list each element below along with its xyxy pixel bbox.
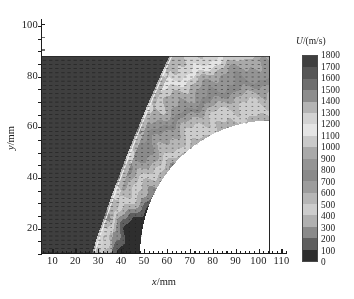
colorbar-band	[303, 227, 317, 238]
colorbar-tick-labels: 1800170016001500140013001200110010009008…	[321, 55, 354, 262]
y-tick-minor	[38, 191, 42, 192]
colorbar-band	[303, 170, 317, 181]
x-tick-minor	[226, 251, 227, 255]
colorbar-band	[303, 124, 317, 135]
colorbar-tick-label: 800	[321, 165, 335, 175]
x-tick-major	[75, 249, 76, 255]
y-tick-minor	[38, 165, 42, 166]
x-tick-minor	[94, 251, 95, 255]
colorbar-tick-label: 700	[321, 177, 335, 187]
y-tick-minor	[38, 140, 42, 141]
x-tick-label: 30	[93, 255, 104, 266]
x-tick-minor	[199, 251, 200, 255]
y-tick-label: 100	[22, 19, 38, 30]
colorbar-band	[303, 238, 317, 249]
y-axis-line	[41, 19, 42, 254]
x-tick-minor	[231, 251, 232, 255]
colorbar-tick-label: 1000	[321, 142, 340, 152]
x-tick-label: 70	[184, 255, 195, 266]
x-tick-major	[167, 249, 168, 255]
colorbar-band	[303, 113, 317, 124]
x-tick-minor	[181, 251, 182, 255]
x-tick-minor	[66, 251, 67, 255]
x-tick-minor	[126, 251, 127, 255]
plot-axes-frame: 20406080100 102030405060708090100110	[41, 19, 286, 254]
colorbar-tick-label: 200	[321, 234, 335, 244]
x-tick-minor	[80, 251, 81, 255]
colorbar-tick-label: 400	[321, 211, 335, 221]
y-axis-sep: /	[5, 142, 16, 145]
colorbar-tick-label: 1300	[321, 108, 340, 118]
colorbar-tick-label: 300	[321, 223, 335, 233]
colorbar-tick-label: 1800	[321, 50, 340, 60]
colorbar-band	[303, 215, 317, 226]
x-tick-label: 110	[273, 255, 289, 266]
x-tick-minor	[158, 251, 159, 255]
y-tick-minor	[38, 77, 42, 78]
y-tick-minor	[38, 203, 42, 204]
colorbar-band	[303, 102, 317, 113]
x-tick-label: 10	[47, 255, 58, 266]
x-tick-major	[98, 249, 99, 255]
x-tick-label: 60	[161, 255, 172, 266]
colorbar: U/(m/s) 18001700160015001400130012001100…	[296, 36, 354, 268]
colorbar-band	[303, 90, 317, 101]
colorbar-band	[303, 147, 317, 158]
y-tick-minor	[38, 153, 42, 154]
x-tick-minor	[204, 251, 205, 255]
y-tick-minor	[38, 26, 42, 27]
x-tick-minor	[112, 251, 113, 255]
x-tick-label: 50	[139, 255, 150, 266]
x-tick-minor	[194, 251, 195, 255]
colorbar-symbol: U	[296, 36, 303, 46]
x-tick-minor	[57, 251, 58, 255]
y-tick-minor	[38, 229, 42, 230]
x-tick-minor	[117, 251, 118, 255]
colorbar-tick-label: 1100	[321, 131, 340, 141]
x-tick-label: 90	[230, 255, 241, 266]
x-tick-label: 80	[207, 255, 218, 266]
colorbar-band	[303, 250, 317, 261]
x-tick-major	[281, 249, 282, 255]
colorbar-tick-label: 1200	[321, 119, 340, 129]
x-tick-minor	[135, 251, 136, 255]
x-tick-minor	[139, 251, 140, 255]
y-tick-minor	[38, 51, 42, 52]
x-tick-minor	[103, 251, 104, 255]
colorbar-tick-label: 1700	[321, 62, 340, 72]
y-tick-minor	[38, 89, 42, 90]
x-tick-minor	[272, 251, 273, 255]
colorbar-tick-label: 1600	[321, 73, 340, 83]
x-tick-minor	[43, 251, 44, 255]
y-tick-minor	[38, 241, 42, 242]
x-tick-minor	[149, 251, 150, 255]
x-tick-minor	[217, 251, 218, 255]
colorbar-band	[303, 136, 317, 147]
colorbar-title: U/(m/s)	[296, 36, 326, 46]
colorbar-band	[303, 159, 317, 170]
colorbar-gradient-strip	[302, 55, 318, 262]
x-tick-minor	[62, 251, 63, 255]
velocity-contour-figure: 20406080100 102030405060708090100110 y/m…	[0, 0, 354, 299]
x-tick-major	[236, 249, 237, 255]
x-tick-minor	[172, 251, 173, 255]
y-axis-symbol: y	[5, 145, 16, 150]
y-axis-unit: mm	[5, 126, 16, 142]
y-tick-label: 40	[27, 171, 38, 182]
x-tick-minor	[245, 251, 246, 255]
x-tick-major	[259, 249, 260, 255]
y-tick-label: 80	[27, 69, 38, 80]
x-tick-major	[190, 249, 191, 255]
x-tick-label: 40	[116, 255, 127, 266]
x-axis-title: x/mm	[152, 276, 176, 287]
colorbar-band	[303, 204, 317, 215]
y-tick-minor	[38, 102, 42, 103]
x-tick-minor	[277, 251, 278, 255]
x-tick-minor	[176, 251, 177, 255]
x-tick-major	[52, 249, 53, 255]
colorbar-tick-label: 100	[321, 246, 335, 256]
x-tick-minor	[89, 251, 90, 255]
colorbar-band	[303, 193, 317, 204]
x-tick-major	[144, 249, 145, 255]
x-tick-minor	[162, 251, 163, 255]
